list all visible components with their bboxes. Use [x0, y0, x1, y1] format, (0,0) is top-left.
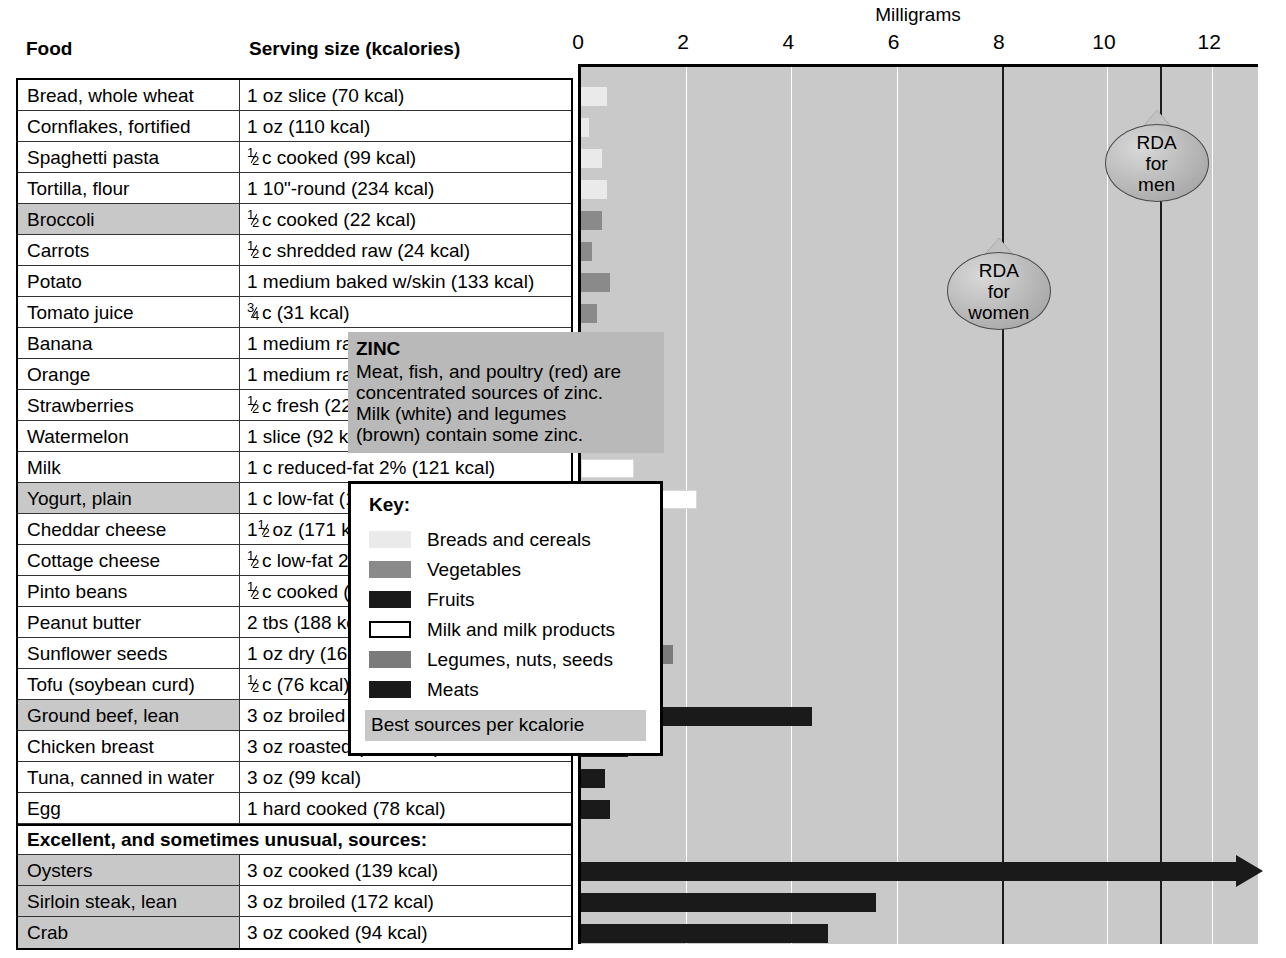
bar-row	[581, 81, 1261, 112]
fraction-glyph: 12	[247, 551, 260, 570]
table-row: Crab3 oz cooked (94 kcal)	[18, 917, 571, 948]
fraction-glyph: 12	[258, 520, 271, 539]
zinc-food-chart-figure: Milligrams 024681012 Food Serving size (…	[0, 0, 1286, 958]
bar-row	[581, 856, 1261, 887]
bar-row	[581, 422, 1261, 453]
table-row: Broccoli12 c cooked (22 kcal)	[18, 204, 571, 235]
zinc-info-line: concentrated sources of zinc.	[356, 382, 656, 403]
bar-carrots	[581, 242, 592, 261]
zinc-info-line: Meat, fish, and poultry (red) are	[356, 361, 656, 382]
cell-food-name: Sunflower seeds	[18, 638, 240, 668]
zinc-info-box: ZINC Meat, fish, and poultry (red) areco…	[348, 332, 664, 453]
bar-row	[581, 267, 1261, 298]
cell-serving-size: 12 c shredded raw (24 kcal)	[240, 235, 571, 265]
fraction-glyph: 12	[247, 148, 260, 167]
bar-bread-whole-wheat	[581, 87, 607, 106]
cell-food-name: Cornflakes, fortified	[18, 111, 240, 141]
cell-food-name: Bread, whole wheat	[18, 80, 240, 110]
legend-title: Key:	[369, 494, 660, 516]
bar-row	[581, 639, 1261, 670]
table-row: Cornflakes, fortified1 oz (110 kcal)	[18, 111, 571, 142]
cell-food-name: Ground beef, lean	[18, 700, 240, 730]
cell-food-name: Tortilla, flour	[18, 173, 240, 203]
cell-food-name: Peanut butter	[18, 607, 240, 637]
zinc-info-title: ZINC	[356, 338, 656, 360]
legend-swatch-icon	[369, 591, 411, 608]
bar-tortilla-flour	[581, 180, 607, 199]
table-row: Tortilla, flour1 10"-round (234 kcal)	[18, 173, 571, 204]
bar-row	[581, 360, 1261, 391]
bar-row	[581, 453, 1261, 484]
bar-row	[581, 794, 1261, 825]
cell-food-name: Spaghetti pasta	[18, 142, 240, 172]
bar-egg	[581, 800, 610, 819]
rda-label: RDAforwomen	[947, 260, 1051, 323]
table-row: Oysters3 oz cooked (139 kcal)	[18, 855, 571, 886]
cell-serving-size: 1 hard cooked (78 kcal)	[240, 793, 571, 823]
legend-swatch-icon	[369, 621, 411, 638]
cell-food-name: Tomato juice	[18, 297, 240, 327]
bar-row	[581, 701, 1261, 732]
legend-swatch-icon	[369, 561, 411, 578]
bar-row	[581, 298, 1261, 329]
legend-item: Legumes, nuts, seeds	[369, 644, 660, 674]
column-header-food: Food	[26, 38, 72, 60]
section-header-label: Excellent, and sometimes unusual, source…	[18, 826, 571, 854]
fraction-glyph: 12	[247, 210, 260, 229]
cell-serving-size: 1 medium baked w/skin (133 kcal)	[240, 266, 571, 296]
x-tick-12: 12	[1198, 30, 1221, 54]
axis-title: Milligrams	[578, 4, 1258, 26]
table-row: Tuna, canned in water3 oz (99 kcal)	[18, 762, 571, 793]
x-tick-6: 6	[888, 30, 900, 54]
legend-key-box: Key: Breads and cerealsVegetablesFruitsM…	[348, 481, 663, 756]
legend-item: Breads and cereals	[369, 524, 660, 554]
cell-serving-size: 12 c cooked (99 kcal)	[240, 142, 571, 172]
rda-marker-rda-for-women: RDAforwomen	[947, 238, 1051, 330]
x-axis-tick-labels: 024681012	[0, 30, 1286, 64]
fraction-glyph: 12	[247, 582, 260, 601]
bar-row	[581, 608, 1261, 639]
bar-row	[581, 329, 1261, 360]
column-header-serving-size: Serving size (kcalories)	[249, 38, 460, 60]
fraction-glyph: 12	[247, 241, 260, 260]
zinc-info-line: (brown) contain some zinc.	[356, 424, 656, 445]
cell-food-name: Milk	[18, 452, 240, 482]
bar-cornflakes-fortified	[581, 118, 589, 137]
legend-item-label: Vegetables	[427, 560, 521, 579]
bar-milk	[581, 459, 634, 478]
cell-serving-size: 1 oz slice (70 kcal)	[240, 80, 571, 110]
table-row: Egg1 hard cooked (78 kcal)	[18, 793, 571, 824]
bar-row	[581, 484, 1261, 515]
cell-serving-size: 12 c cooked (22 kcal)	[240, 204, 571, 234]
bar-spaghetti-pasta	[581, 149, 602, 168]
cell-serving-size: 1 c reduced-fat 2% (121 kcal)	[240, 452, 571, 482]
bar-row	[581, 732, 1261, 763]
table-row: Carrots12 c shredded raw (24 kcal)	[18, 235, 571, 266]
bar-row	[581, 205, 1261, 236]
zinc-info-text: Meat, fish, and poultry (red) areconcent…	[356, 361, 656, 445]
table-row: Bread, whole wheat1 oz slice (70 kcal)	[18, 80, 571, 111]
cell-food-name: Cheddar cheese	[18, 514, 240, 544]
bar-row	[581, 236, 1261, 267]
bar-row	[581, 391, 1261, 422]
cell-food-name: Oysters	[18, 855, 240, 885]
bar-row	[581, 887, 1261, 918]
legend-item: Milk and milk products	[369, 614, 660, 644]
legend-item-label: Milk and milk products	[427, 620, 615, 639]
legend-item: Fruits	[369, 584, 660, 614]
cell-food-name: Tofu (soybean curd)	[18, 669, 240, 699]
legend-swatch-icon	[369, 531, 411, 548]
legend-best-sources-note: Best sources per kcalorie	[365, 710, 646, 741]
rda-label: RDAformen	[1105, 132, 1209, 195]
bar-row	[581, 763, 1261, 794]
legend-swatch-icon	[369, 681, 411, 698]
fraction-glyph: 34	[247, 303, 260, 322]
cell-serving-size: 1 oz (110 kcal)	[240, 111, 571, 141]
cell-food-name: Potato	[18, 266, 240, 296]
cell-serving-size: 34 c (31 kcal)	[240, 297, 571, 327]
cell-food-name: Tuna, canned in water	[18, 762, 240, 792]
bar-broccoli	[581, 211, 602, 230]
cell-food-name: Crab	[18, 917, 240, 948]
legend-item-label: Fruits	[427, 590, 475, 609]
legend-swatch-icon	[369, 651, 411, 668]
